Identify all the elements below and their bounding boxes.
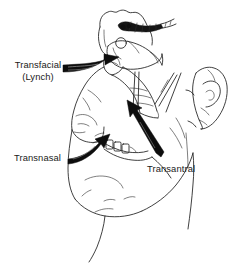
label-transnasal: Transnasal: [14, 152, 61, 163]
label-transnasal-line1: Transnasal: [14, 152, 61, 163]
label-transantral-line1: Transantral: [147, 163, 195, 174]
head-surgical-approaches-diagram: Transfacial (Lynch) Transnasal Transantr…: [0, 0, 236, 263]
label-transantral: Transantral: [147, 163, 195, 174]
label-transfacial-line1: Transfacial: [15, 59, 62, 70]
label-transfacial-line2: (Lynch): [22, 71, 54, 82]
figure-background: [0, 0, 236, 263]
anatomical-figure: Transfacial (Lynch) Transnasal Transantr…: [0, 0, 236, 263]
